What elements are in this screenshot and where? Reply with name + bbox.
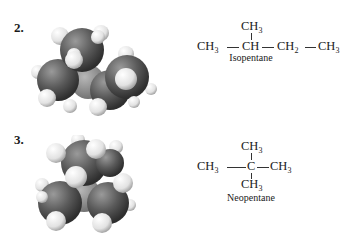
formula-text: CH3: [270, 159, 291, 173]
neopentane-ch3-left: CH3: [197, 160, 218, 173]
neopentane-ch3-right: CH3: [270, 160, 291, 173]
item-number-3: 3.: [14, 132, 24, 148]
neopentane-bottom-ch3: CH3: [241, 178, 262, 191]
isopentane-ch3-left: CH3: [197, 40, 218, 53]
formula-text: CH3: [241, 177, 262, 191]
formula-text: CH3: [241, 139, 262, 153]
isopentane-space-filling-model-icon: [30, 22, 160, 118]
neopentane-space-filling-model-icon: [34, 135, 138, 235]
neopentane-label: Neopentane: [227, 192, 275, 203]
horizontal-bond: [257, 167, 269, 168]
isopentane-branch-ch3: CH3: [241, 20, 262, 33]
formula-text: CH3: [318, 39, 339, 53]
neopentane-central-c: C: [247, 160, 255, 173]
formula-text: CH3: [241, 19, 262, 33]
formula-text: CH: [242, 39, 259, 53]
isopentane-label: Isopentane: [229, 52, 272, 63]
neopentane-top-ch3: CH3: [241, 140, 262, 153]
formula-text: C: [247, 159, 255, 173]
isopentane-ch3-right: CH3: [318, 40, 339, 53]
formula-text: CH2: [277, 39, 298, 53]
horizontal-bond: [262, 47, 274, 48]
formula-text: CH3: [197, 159, 218, 173]
isopentane-ch2: CH2: [277, 40, 298, 53]
isopentane-ch: CH: [242, 40, 259, 53]
horizontal-bond: [305, 47, 316, 48]
horizontal-bond: [227, 167, 246, 168]
item-number-2: 2.: [14, 20, 24, 36]
formula-text: CH3: [197, 39, 218, 53]
horizontal-bond: [227, 47, 239, 48]
